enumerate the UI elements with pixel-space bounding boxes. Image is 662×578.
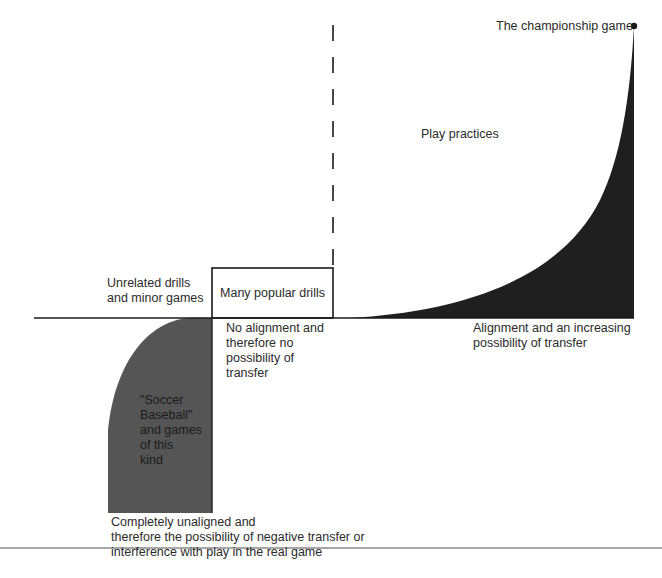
play-practices-label: Play practices xyxy=(421,127,499,142)
alignment-label: Alignment and an increasing possibility … xyxy=(473,321,631,351)
soccer-baseball-label: "Soccer Baseball" and games of this kind xyxy=(140,393,202,468)
alignment-region xyxy=(350,26,634,318)
popular-drills-label: Many popular drills xyxy=(212,268,333,318)
no-alignment-label: No alignment and therefore no possibilit… xyxy=(226,321,324,381)
championship-label: The championship game xyxy=(496,19,633,34)
unrelated-drills-label: Unrelated drills and minor games xyxy=(107,276,204,306)
unaligned-label: Completely unaligned and therefore the p… xyxy=(111,515,365,560)
